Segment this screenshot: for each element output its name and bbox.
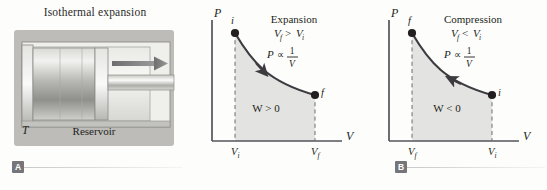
pressure-axis-label: P (213, 6, 222, 20)
tick-label-vi: V i (231, 146, 240, 160)
svg-text:i: i (495, 151, 497, 160)
svg-text:V: V (289, 59, 296, 69)
svg-text:f: f (280, 33, 283, 42)
svg-text:>: > (285, 27, 291, 39)
svg-text:f: f (457, 33, 460, 42)
point-final-label: f (408, 15, 413, 26)
point-final (311, 91, 319, 99)
point-initial-label: i (498, 87, 501, 98)
panel-compression-pv-diagram: P V f i Compression V f < V i P ∝ 1 V (367, 0, 547, 190)
work-label: W > 0 (252, 102, 280, 114)
panel-marker-a: A (12, 161, 182, 173)
panel-c-caption: Compression (444, 13, 503, 25)
svg-text:P: P (443, 48, 451, 60)
svg-text:i: i (238, 151, 240, 160)
svg-text:i: i (302, 33, 304, 42)
tick-label-vf: V f (408, 146, 418, 160)
volume-axis-label: V (346, 129, 355, 143)
point-final-label: f (321, 87, 326, 98)
panel-marker-a-letter: A (12, 161, 24, 173)
tick-label-vi: V i (488, 146, 497, 160)
volume-axis-label: V (523, 129, 532, 143)
work-label: W < 0 (433, 102, 461, 114)
point-final (408, 29, 416, 37)
svg-text:f: f (415, 151, 418, 160)
panel-isothermal-expansion: Isothermal expansion (0, 0, 190, 190)
panel-b-volume-relation: V f > V i (274, 27, 304, 42)
svg-text:V: V (466, 59, 473, 69)
svg-text:∝: ∝ (454, 49, 461, 60)
figure-container: Isothermal expansion (0, 0, 547, 190)
svg-text:∝: ∝ (277, 49, 284, 60)
point-initial-label: i (231, 15, 234, 26)
point-initial (231, 29, 239, 37)
proportionality-label: P ∝ 1 V (266, 46, 298, 69)
reservoir-label: Reservoir (14, 125, 174, 137)
work-area-shading (235, 33, 315, 141)
pressure-axis-label: P (390, 6, 399, 20)
pv-diagram-expansion: P V i f Expansion V f > V i P ∝ 1 V (190, 0, 367, 190)
work-area-shading (412, 33, 492, 141)
pv-diagram-compression: P V f i Compression V f < V i P ∝ 1 V (367, 0, 547, 190)
svg-text:f: f (318, 151, 321, 160)
point-initial (488, 91, 496, 99)
proportionality-label: P ∝ 1 V (443, 46, 475, 69)
panel-c-volume-relation: V f < V i (451, 27, 481, 42)
panel-rule-a (24, 167, 182, 168)
panel-b-caption: Expansion (271, 13, 318, 25)
svg-text:1: 1 (290, 46, 295, 56)
panel-expansion-pv-diagram: P V i f Expansion V f > V i P ∝ 1 V (190, 0, 367, 190)
svg-text:i: i (479, 33, 481, 42)
tick-label-vf: V f (311, 146, 321, 160)
svg-text:<: < (462, 27, 468, 39)
svg-text:1: 1 (467, 46, 472, 56)
svg-text:P: P (266, 48, 274, 60)
